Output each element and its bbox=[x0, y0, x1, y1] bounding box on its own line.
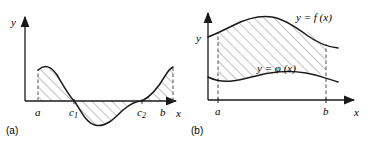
tick-label-c2: c2 bbox=[137, 107, 146, 120]
curve-label-phi: y = φ (x) bbox=[257, 63, 296, 74]
tick-label-c1: c1 bbox=[69, 107, 78, 120]
tick-label-c1-sub: 1 bbox=[74, 111, 78, 120]
curve-label-f: y = f (x) bbox=[296, 12, 332, 23]
panel-caption-b: (b) bbox=[191, 126, 203, 136]
tick-label-b-b-panel: b bbox=[323, 106, 329, 117]
x-axis-label-b: x bbox=[354, 107, 359, 118]
y-axis-label-a: y bbox=[11, 17, 16, 28]
panel-b: y x a b y = f (x) y = φ (x) (b) bbox=[186, 0, 371, 143]
shaded-region-c2-b bbox=[142, 68, 173, 101]
panel-a: y x a c1 c2 b (a) bbox=[0, 0, 186, 143]
tick-label-a: a bbox=[35, 107, 41, 118]
figure-root: y x a c1 c2 b (a) bbox=[0, 0, 371, 143]
tick-label-c2-sub: 2 bbox=[142, 111, 146, 120]
tick-label-a-b-panel: a bbox=[215, 106, 221, 117]
x-axis-label-a: x bbox=[176, 108, 181, 119]
tick-label-b: b bbox=[160, 107, 166, 118]
y-axis-label-b: y bbox=[196, 33, 201, 44]
panel-caption-a: (a) bbox=[6, 126, 18, 136]
panel-a-graphic bbox=[0, 0, 186, 143]
